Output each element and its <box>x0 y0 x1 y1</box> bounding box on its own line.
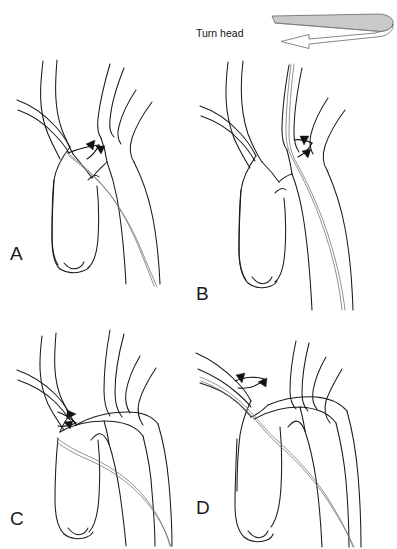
turn-arrow-upper-band <box>272 14 393 32</box>
turn-head-label: Turn head <box>196 27 243 39</box>
panel-d-catheter <box>200 377 354 547</box>
panel-label-a: A <box>10 243 23 265</box>
panel-label-d: D <box>196 497 210 519</box>
panel-a-illustration <box>0 58 200 288</box>
panel-d-illustration <box>190 339 397 549</box>
panel-d-direction-arrow <box>235 373 267 388</box>
panel-b-catheter <box>286 64 345 310</box>
panel-a-direction-arrow <box>68 140 105 159</box>
panel-d-vessels <box>196 341 361 547</box>
panel-label-b: B <box>196 283 209 305</box>
panel-c-vessels <box>17 330 172 546</box>
panel-c-illustration <box>0 328 200 548</box>
panel-b-vessels <box>200 61 353 310</box>
panel-c-catheter <box>57 438 171 547</box>
figure-canvas: Turn head <box>0 0 397 549</box>
panel-label-c: C <box>10 508 24 530</box>
panel-b-illustration <box>190 58 397 313</box>
